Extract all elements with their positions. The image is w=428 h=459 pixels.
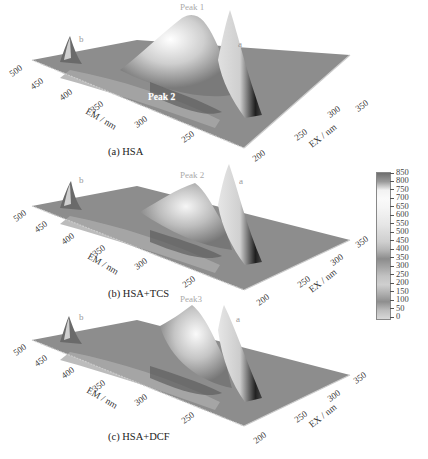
- em-tick: 500: [11, 207, 28, 223]
- em-tick: 300: [132, 255, 149, 271]
- surface-plot-c: Peak3 a b 500 450 400 350 300 250 EM / n…: [0, 300, 370, 459]
- ex-tick: 350: [353, 233, 370, 249]
- em-tick: 400: [57, 86, 74, 102]
- em-tick: 400: [59, 364, 76, 380]
- em-tick: 500: [11, 341, 28, 357]
- em-tick: 250: [179, 409, 196, 425]
- colorbar-ticks: 8508007507006506005505004504003503002502…: [390, 172, 428, 320]
- ex-axis-label: EX / nm: [307, 122, 339, 150]
- ex-tick: 300: [325, 387, 342, 403]
- surface-plot-a: Peak 1 Peak 2 a b 500 450 400 350 300 25…: [0, 0, 370, 150]
- em-axis-label: EM / nm: [84, 106, 119, 132]
- scatter-label-b: b: [79, 175, 84, 185]
- ex-tick: 350: [351, 369, 368, 385]
- ex-axis-label: EX / nm: [307, 267, 339, 295]
- em-tick: 300: [132, 391, 149, 407]
- ex-tick: 300: [328, 251, 345, 267]
- ex-tick: 200: [251, 429, 268, 445]
- scatter-label-a: a: [238, 39, 242, 49]
- panel-caption: (b) HSA+TCS: [108, 288, 169, 299]
- em-tick: 300: [132, 113, 149, 129]
- ex-axis-label: EX / nm: [307, 402, 339, 430]
- em-tick: 450: [32, 218, 49, 234]
- scatter-label-b: b: [79, 34, 84, 44]
- colorbar: [376, 172, 391, 320]
- em-tick: 250: [180, 273, 197, 289]
- peak-label-main: Peak 1: [180, 2, 204, 12]
- em-tick: 250: [179, 128, 196, 144]
- peak-label-main: Peak 2: [180, 170, 204, 180]
- colorbar-tick-label: 0: [390, 312, 400, 321]
- ex-tick: 250: [292, 126, 309, 142]
- em-tick: 500: [7, 62, 24, 78]
- em-axis-label: EM / nm: [86, 251, 121, 277]
- peak-label-main: Peak3: [180, 294, 202, 304]
- surface-plot-b: Peak 2 a b 500 450 400 350 300 250 EM / …: [0, 150, 370, 300]
- em-tick: 400: [59, 230, 76, 246]
- em-tick: 450: [28, 75, 45, 91]
- panel-c: Peak3 a b 500 450 400 350 300 250 EM / n…: [0, 300, 370, 459]
- panel-a: Peak 1 Peak 2 a b 500 450 400 350 300 25…: [0, 0, 370, 150]
- scatter-label-a: a: [236, 314, 240, 324]
- peak-label-secondary: Peak 2: [148, 92, 175, 102]
- em-tick: 450: [32, 352, 49, 368]
- ex-tick: 300: [325, 103, 342, 119]
- scatter-label-b: b: [79, 312, 84, 322]
- panel-b: Peak 2 a b 500 450 400 350 300 250 EM / …: [0, 150, 370, 300]
- panel-caption: (c) HSA+DCF: [108, 431, 170, 442]
- ex-tick: 350: [353, 97, 370, 113]
- scatter-peak-b: [60, 181, 82, 210]
- scatter-label-a: a: [239, 176, 243, 186]
